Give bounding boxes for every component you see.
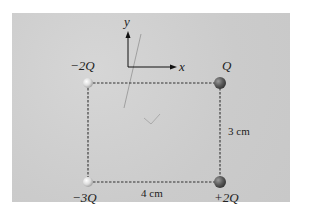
width-dimension-label: 4 cm <box>141 187 163 199</box>
pencil-mark <box>124 34 141 108</box>
charge-label-top-left: −2Q <box>70 58 95 74</box>
y-arrow-icon <box>126 31 131 38</box>
height-dimension-label: 3 cm <box>228 125 250 137</box>
charge-label-bottom-right: +2Q <box>214 190 239 206</box>
charge-bottom-right <box>214 176 226 188</box>
charge-top-left <box>83 78 93 88</box>
x-axis-label: x <box>179 59 185 75</box>
rectangle-outline <box>88 83 220 182</box>
charge-top-right <box>214 77 226 89</box>
x-arrow-icon <box>170 65 177 70</box>
y-axis-label: y <box>124 14 130 30</box>
charge-label-top-right: Q <box>222 58 231 74</box>
charge-label-bottom-left: −3Q <box>72 190 97 206</box>
charge-bottom-left <box>83 177 93 187</box>
